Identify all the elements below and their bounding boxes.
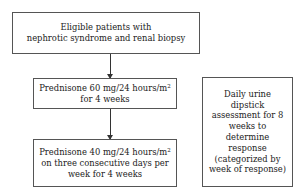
prednisone-40-line-1: Prednisone 40 mg/24 hours/m2	[39, 147, 171, 158]
prednisone-60-line-2: for 4 weeks	[39, 94, 171, 105]
prednisone-40-line-2: on three consecutive days per	[39, 158, 171, 169]
dipstick-line-3: assessment for 8	[209, 110, 286, 121]
dipstick-line-7: (categorized by	[209, 154, 286, 165]
eligible-patients-box: Eligible patients with nephrotic syndrom…	[12, 12, 200, 54]
arrow-down-icon	[110, 109, 111, 139]
dipstick-line-5: determine	[209, 132, 286, 143]
eligible-line-1: Eligible patients with	[27, 22, 186, 33]
dipstick-line-1: Daily urine	[209, 89, 286, 100]
arrow-down-icon	[110, 54, 111, 78]
prednisone-60-line-1: Prednisone 60 mg/24 hours/m2	[39, 83, 171, 94]
dipstick-line-6: response	[209, 143, 286, 154]
urine-dipstick-box: Daily urine dipstick assessment for 8 we…	[202, 77, 293, 187]
dipstick-line-4: weeks to	[209, 121, 286, 132]
prednisone-40-line-3: week for 4 weeks	[39, 169, 171, 180]
eligible-line-2: nephrotic syndrome and renal biopsy	[27, 33, 186, 44]
prednisone-40-box: Prednisone 40 mg/24 hours/m2 on three co…	[33, 139, 177, 187]
prednisone-60-box: Prednisone 60 mg/24 hours/m2 for 4 weeks	[33, 78, 177, 109]
dipstick-line-2: dipstick	[209, 100, 286, 111]
dipstick-line-8: week of response)	[209, 164, 286, 175]
